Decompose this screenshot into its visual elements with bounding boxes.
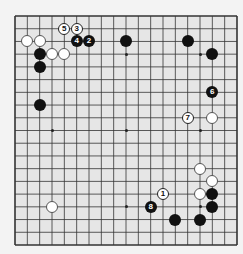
white-stone [46,201,58,213]
star-point [199,129,202,132]
black-stone [34,61,46,73]
white-stone [194,163,206,175]
black-stone [34,48,46,60]
star-point [199,53,202,56]
white-stone-move-3: 3 [71,23,83,35]
black-stone [34,99,46,111]
white-stone [194,188,206,200]
white-stone-move-5: 5 [58,23,70,35]
star-point [51,129,54,132]
go-board[interactable]: 12345678 [15,16,237,245]
white-stone-move-1: 1 [157,188,169,200]
black-stone-move-8: 8 [145,201,157,213]
star-point [125,53,128,56]
black-stone [169,214,181,226]
black-stone [194,214,206,226]
star-point [125,205,128,208]
white-stone-move-7: 7 [182,112,194,124]
star-point [125,129,128,132]
star-point [199,205,202,208]
